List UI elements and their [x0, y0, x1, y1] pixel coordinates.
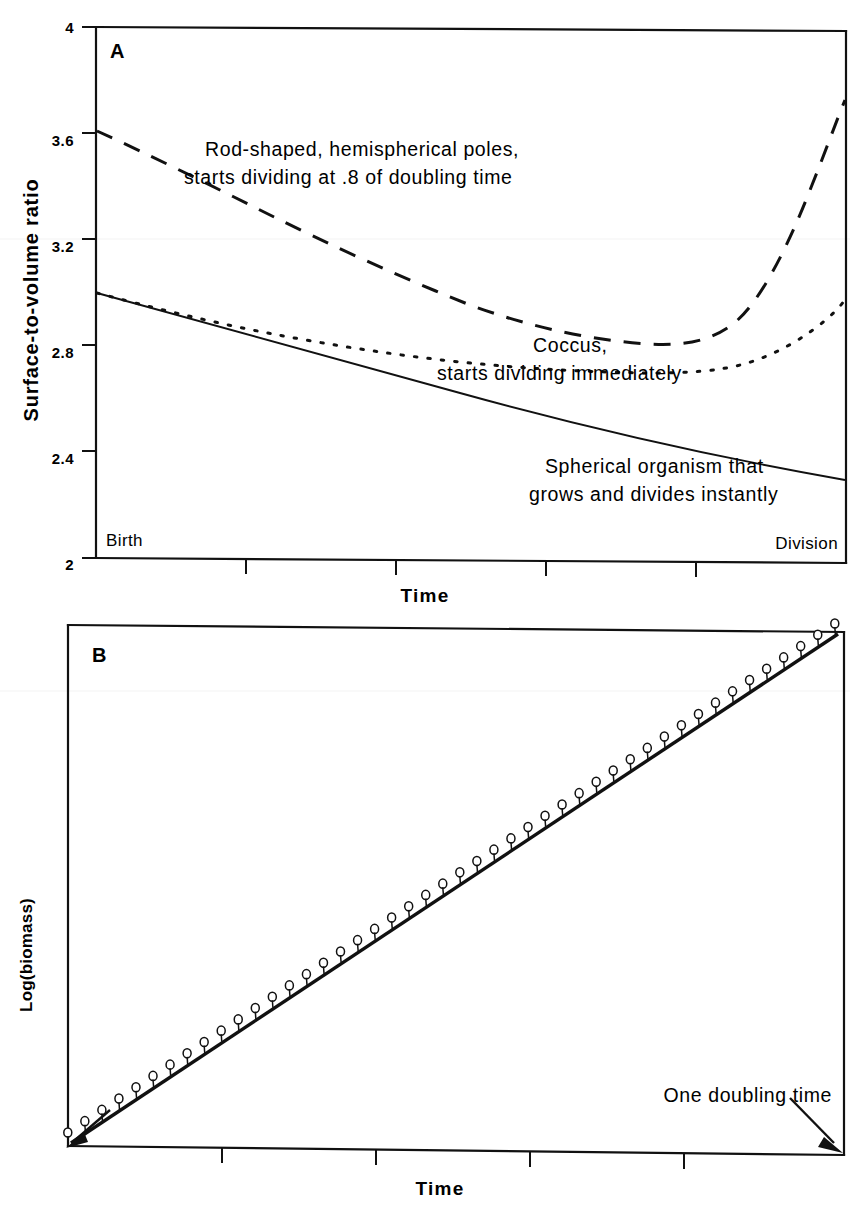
panel-b-marker-stem — [818, 638, 819, 645]
panel-b-marker-stem — [187, 1057, 188, 1064]
panel-b-marker — [490, 845, 498, 854]
panel-a-curve-coccus — [97, 293, 846, 373]
panel-b-marker-stem — [698, 718, 699, 725]
figure-root: 4 3.6 3.2 2.8 2.4 2 Surface-to-volume ra… — [0, 0, 856, 1217]
panel-a: 4 3.6 3.2 2.8 2.4 2 Surface-to-volume ra… — [20, 19, 846, 606]
panel-b-marker-stem — [715, 706, 716, 713]
panel-a-curve-rod-shaped — [97, 100, 845, 344]
panel-b-marker — [115, 1094, 123, 1103]
panel-b-marker-stem — [170, 1068, 171, 1075]
panel-b-marker — [711, 698, 719, 707]
panel-b-marker — [132, 1083, 140, 1092]
panel-b-marker-stem — [272, 1000, 273, 1007]
panel-b-marker-stem — [835, 627, 836, 634]
panel-b-marker — [814, 630, 822, 639]
panel-b-marker — [268, 992, 276, 1001]
panel-b-marker — [234, 1015, 242, 1024]
spherical-line1: Spherical organism that — [545, 455, 764, 477]
panel-b-marker — [746, 675, 754, 684]
panel-b-marker-stem — [323, 966, 324, 973]
panel-b-marker-stem — [733, 695, 734, 702]
panel-a-birth-label: Birth — [106, 531, 143, 550]
panel-b-marker — [763, 664, 771, 673]
panel-b-marker — [592, 777, 600, 786]
coccus-line2: starts dividing immediately — [437, 362, 682, 384]
panel-b-top-frame — [68, 625, 844, 632]
panel-b-marker — [729, 687, 737, 696]
panel-b-left-arrow — [66, 1110, 110, 1148]
panel-b-marker — [677, 721, 685, 730]
panel-a-division-label: Division — [775, 534, 838, 553]
panel-b-marker — [439, 879, 447, 888]
panel-b-marker-stem — [392, 921, 393, 928]
panel-b-marker — [371, 924, 379, 933]
panel-b-doubling-time-annotation: One doubling time — [664, 1084, 832, 1106]
panel-b-marker-stem — [68, 1136, 69, 1143]
panel-b-marker — [302, 970, 310, 979]
panel-b: B Log(biomass) One doubling time Time — [17, 619, 844, 1199]
panel-b-growth-line — [71, 634, 838, 1143]
panel-b-marker — [575, 789, 583, 798]
panel-b-marker — [831, 619, 839, 628]
spherical-line2: grows and divides instantly — [529, 483, 778, 505]
panel-b-marker — [456, 868, 464, 877]
panel-b-marker-stem — [664, 740, 665, 747]
panel-b-marker-stem — [153, 1080, 154, 1087]
panel-b-marker — [643, 743, 651, 752]
panel-b-marker-stem — [119, 1102, 120, 1109]
panel-b-marker-stem — [579, 797, 580, 804]
panel-b-letter: B — [92, 644, 106, 666]
panel-b-marker — [166, 1060, 174, 1069]
rod-shaped-line2: starts dividing at .8 of doubling time — [184, 166, 512, 188]
panel-b-marker-stem — [767, 672, 768, 679]
panel-a-x-axis — [96, 558, 846, 563]
panel-b-marker — [251, 1003, 259, 1012]
panel-b-marker — [473, 856, 481, 865]
panel-b-marker — [405, 902, 413, 911]
panel-b-marker — [507, 834, 515, 843]
panel-a-y-axis-title: Surface-to-volume ratio — [20, 179, 42, 422]
panel-a-annotation-coccus: Coccus, starts dividing immediately — [437, 334, 682, 384]
panel-b-marker-stem — [460, 876, 461, 883]
panel-a-ytick-2_8: 2.8 — [52, 344, 74, 361]
panel-b-marker-stem — [409, 910, 410, 917]
panel-b-marker — [149, 1071, 157, 1080]
panel-b-marker-stem — [630, 763, 631, 770]
panel-b-marker-stem — [562, 808, 563, 815]
panel-a-x-axis-title: Time — [401, 585, 450, 606]
panel-b-marker — [388, 913, 396, 922]
panel-b-marker — [660, 732, 668, 741]
panel-b-marker-stem — [289, 989, 290, 996]
panel-b-marker-stem — [238, 1023, 239, 1030]
panel-a-annotation-spherical: Spherical organism that grows and divide… — [529, 455, 778, 505]
panel-b-marker-stem — [221, 1034, 222, 1041]
panel-b-marker — [797, 642, 805, 651]
panel-b-marker-stem — [545, 819, 546, 826]
panel-b-y-axis-title: Log(biomass) — [17, 898, 36, 1012]
panel-b-marker — [64, 1128, 72, 1137]
panel-a-letter: A — [110, 40, 124, 62]
panel-a-ytick-3_2: 3.2 — [52, 238, 74, 255]
panel-b-marker-stem — [204, 1046, 205, 1053]
coccus-line1: Coccus, — [533, 334, 608, 356]
panel-b-marker — [81, 1117, 89, 1126]
panel-b-marker-stem — [784, 661, 785, 668]
panel-b-marker-stem — [511, 842, 512, 849]
panel-b-marker — [354, 936, 362, 945]
panel-b-marker — [541, 811, 549, 820]
panel-b-marker — [319, 958, 327, 967]
panel-b-marker-stem — [255, 1012, 256, 1019]
panel-b-marker-stem — [681, 729, 682, 736]
panel-b-marker-stem — [596, 785, 597, 792]
panel-b-marker — [694, 709, 702, 718]
figure-svg: 4 3.6 3.2 2.8 2.4 2 Surface-to-volume ra… — [0, 0, 856, 1217]
panel-b-marker — [217, 1026, 225, 1035]
panel-a-ytick-3_6: 3.6 — [52, 132, 74, 149]
panel-b-marker-stem — [375, 933, 376, 940]
panel-b-marker — [337, 947, 345, 956]
panel-a-ytick-4: 4 — [65, 19, 74, 36]
panel-b-marker — [200, 1037, 208, 1046]
panel-b-marker — [626, 755, 634, 764]
panel-b-marker-stem — [341, 955, 342, 962]
panel-a-y-ticks — [82, 27, 96, 558]
